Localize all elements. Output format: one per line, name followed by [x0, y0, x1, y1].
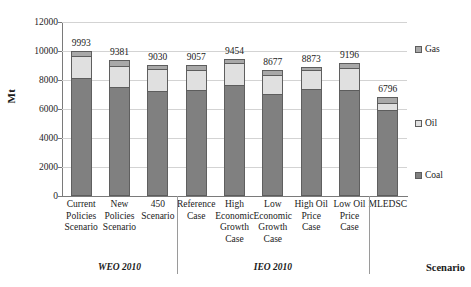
bar-segment-coal[interactable] [339, 90, 360, 196]
y-axis-tick [58, 109, 62, 110]
x-axis-label-8: Low OilPriceCase [328, 199, 370, 234]
bar-value-label: 8873 [302, 54, 321, 64]
x-axis-label-5: HighEconomicGrowthCase [213, 199, 255, 245]
x-axis-label-1: CurrentPoliciesScenario [60, 199, 102, 234]
y-axis-tick-label: 2000 [39, 162, 58, 172]
legend-swatch-coal [415, 172, 422, 179]
legend-swatch-gas [415, 46, 422, 53]
chart-legend: GasOilCoal [415, 22, 471, 182]
bar-segment-oil[interactable] [147, 69, 168, 91]
bar-value-label: 6796 [378, 84, 397, 94]
bar-segment-coal[interactable] [377, 110, 398, 196]
bar-column[interactable] [147, 65, 168, 196]
bar-segment-coal[interactable] [224, 85, 245, 196]
legend-label: Gas [425, 44, 440, 54]
bar-value-label: 9381 [110, 47, 129, 57]
group-label-1: WEO 2010 [70, 262, 170, 272]
bar-segment-coal[interactable] [301, 89, 322, 196]
bar-segment-coal[interactable] [262, 94, 283, 196]
bar-value-label: 9993 [72, 38, 91, 48]
legend-swatch-oil [415, 120, 422, 127]
x-axis-label-9: MLEDSC [367, 199, 409, 211]
legend-item-gas[interactable]: Gas [415, 44, 440, 54]
bar-segment-oil[interactable] [301, 70, 322, 88]
bar-column[interactable] [262, 70, 283, 196]
x-axis-title: Scenario [426, 262, 465, 273]
bar-segment-oil[interactable] [224, 63, 245, 84]
x-axis-label-7: High OilPriceCase [290, 199, 332, 234]
bar-column[interactable] [186, 65, 207, 196]
bar-segment-oil[interactable] [262, 75, 283, 95]
bar-segment-oil[interactable] [71, 56, 92, 77]
bar-segment-oil[interactable] [109, 66, 130, 86]
bar-value-label: 9057 [187, 52, 206, 62]
x-axis-label-4: ReferenceCase [175, 199, 217, 222]
x-axis-category-labels: CurrentPoliciesScenarioNewPoliciesScenar… [62, 199, 408, 261]
x-axis-label-2: NewPoliciesScenario [98, 199, 140, 234]
y-axis-tick-label: 10000 [34, 46, 58, 56]
y-axis-tick [58, 167, 62, 168]
y-axis-tick [58, 196, 62, 197]
gridline [62, 22, 407, 23]
bar-column[interactable] [109, 60, 130, 196]
y-axis-tick [58, 51, 62, 52]
plot-area: 999393819030905794548677887391966796 [62, 22, 407, 196]
bar-column[interactable] [377, 97, 398, 196]
y-axis-tick [58, 138, 62, 139]
bar-column[interactable] [71, 51, 92, 196]
x-axis-label-3: 450Scenario [137, 199, 179, 222]
bar-column[interactable] [339, 63, 360, 196]
bar-value-label: 9454 [225, 46, 244, 56]
group-divider [369, 196, 370, 274]
group-label-2: IEO 2010 [223, 262, 323, 272]
y-axis-tick-label: 12000 [34, 17, 58, 27]
group-divider [177, 196, 178, 274]
bar-value-label: 9030 [148, 52, 167, 62]
y-axis-tick-labels: 020004000600080001000012000 [0, 22, 58, 196]
bar-segment-oil[interactable] [186, 70, 207, 90]
bar-segment-oil[interactable] [377, 103, 398, 110]
y-axis-tick [58, 22, 62, 23]
y-axis-tick-label: 4000 [39, 133, 58, 143]
legend-label: Oil [425, 118, 437, 128]
x-axis-label-6: LowEconomicGrowthCase [252, 199, 294, 245]
bar-segment-coal[interactable] [109, 87, 130, 196]
bar-segment-coal[interactable] [71, 78, 92, 196]
y-axis-tick-label: 8000 [39, 75, 58, 85]
legend-item-coal[interactable]: Coal [415, 170, 443, 180]
bar-value-label: 8677 [263, 57, 282, 67]
bar-column[interactable] [224, 59, 245, 196]
x-axis-line [62, 196, 408, 197]
bar-value-label: 9196 [340, 50, 359, 60]
y-axis-tick-label: 6000 [39, 104, 58, 114]
y-axis-tick [58, 80, 62, 81]
bar-segment-coal[interactable] [147, 91, 168, 196]
bar-segment-oil[interactable] [339, 68, 360, 90]
bar-segment-coal[interactable] [186, 90, 207, 196]
legend-label: Coal [425, 170, 443, 180]
stacked-bar-chart: Mt 020004000600080001000012000 999393819… [0, 0, 471, 287]
bar-column[interactable] [301, 67, 322, 196]
legend-item-oil[interactable]: Oil [415, 118, 437, 128]
